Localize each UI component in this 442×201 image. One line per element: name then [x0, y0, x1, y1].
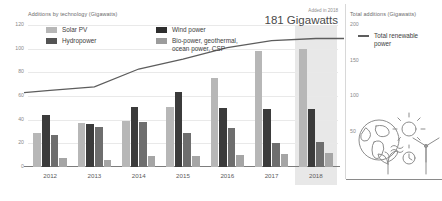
- legend-item: Bio-power, geothermal, ocean power, CSP: [156, 37, 238, 52]
- left-y-tick: 80: [2, 69, 24, 74]
- x-axis-label: 2013: [72, 172, 116, 179]
- bio-power-swatch-icon: [156, 38, 167, 44]
- x-axis-label: 2017: [250, 172, 294, 179]
- total-renewable-legend-label: Total renewable power: [374, 32, 418, 47]
- left-y-tick: 40: [2, 117, 24, 122]
- solar-pv-swatch-icon: [46, 27, 57, 33]
- wind-power-swatch-icon: [156, 27, 167, 33]
- total-renewable-legend: Total renewable power: [358, 32, 418, 47]
- right-y-tick: 200: [350, 22, 372, 27]
- legend-item: Wind power: [156, 26, 206, 34]
- callout-value: 181 Gigawatts: [264, 14, 338, 26]
- legend-item-label: Hydropower: [62, 37, 96, 45]
- legend-item: Solar PV: [46, 26, 87, 34]
- left-y-tick: 20: [2, 140, 24, 145]
- right-y-tick: 150: [350, 58, 372, 63]
- left-y-tick: 60: [2, 93, 24, 98]
- hydropower-swatch-icon: [46, 38, 57, 44]
- left-axis-title: Additions by technology (Gigawatts): [28, 11, 118, 17]
- right-baseline: [346, 179, 442, 180]
- chart-root: Additions by technology (Gigawatts) 1201…: [0, 0, 442, 201]
- left-y-tick: 0: [2, 164, 24, 169]
- left-y-tick: 120: [2, 22, 24, 27]
- x-axis-label: 2015: [161, 172, 205, 179]
- left-y-tick: 100: [2, 46, 24, 51]
- right-axis-title: Total additions (Gigawatts): [350, 11, 416, 17]
- x-axis-label: 2012: [28, 172, 72, 179]
- right-y-tick: 100: [350, 93, 372, 98]
- renewable-energy-illustration: [352, 112, 440, 182]
- legend-item-label: Wind power: [172, 26, 206, 34]
- x-axis-label: 2018: [294, 172, 338, 179]
- legend-item-label: Solar PV: [62, 26, 87, 34]
- left-chart-panel: Additions by technology (Gigawatts) 1201…: [0, 0, 346, 201]
- sun-icon: [402, 122, 416, 136]
- x-axis-label: 2016: [205, 172, 249, 179]
- callout-label: Added in 2018: [308, 8, 338, 13]
- legend-item: Hydropower: [46, 37, 96, 45]
- line-swatch-icon: [358, 35, 369, 37]
- legend-item-label: Bio-power, geothermal, ocean power, CSP: [172, 37, 238, 52]
- x-axis-label: 2014: [117, 172, 161, 179]
